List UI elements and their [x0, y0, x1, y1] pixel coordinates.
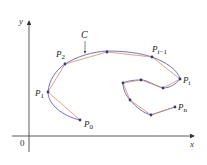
label-p0: P0: [83, 119, 94, 131]
point-6: [162, 87, 165, 90]
label-pi-minus-1: Pi−1: [151, 44, 167, 56]
axes: x y 0: [12, 16, 194, 152]
x-axis-label: x: [189, 139, 194, 149]
point-p0: [79, 119, 82, 122]
point-8: [122, 82, 125, 85]
label-p1: P1: [34, 88, 45, 100]
y-axis-label: y: [18, 16, 23, 26]
point-10: [150, 114, 153, 117]
point-pi: [179, 78, 182, 81]
label-p2: P2: [55, 49, 66, 61]
point-pi-minus-1: [151, 56, 154, 59]
label-pn: Pn: [177, 102, 188, 114]
curve-label-group: C: [81, 29, 88, 53]
point-7: [140, 79, 143, 82]
point-pn: [174, 106, 177, 109]
point-p2: [64, 63, 67, 66]
point-9: [129, 99, 132, 102]
polygonal-approximation-diagram: x y 0 C P0 P1 P2 Pi−: [0, 0, 207, 165]
point-p1: [47, 91, 50, 94]
label-pi: Pi: [182, 75, 191, 87]
curve-label: C: [81, 29, 88, 40]
point-3: [106, 51, 109, 54]
origin-label: 0: [20, 138, 25, 148]
